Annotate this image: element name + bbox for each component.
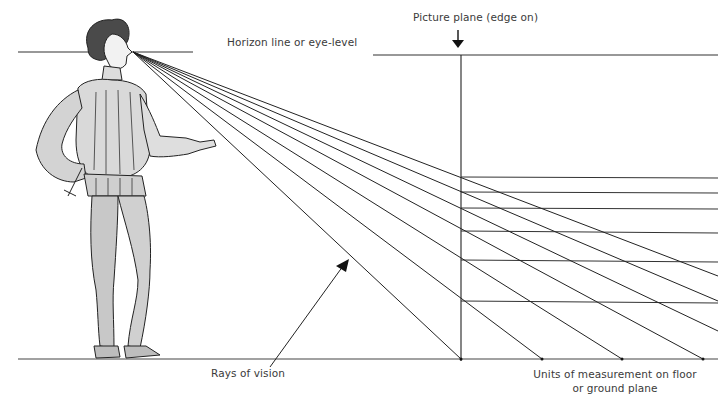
rays-of-vision xyxy=(133,52,718,359)
picture-plane-label: Picture plane (edge on) xyxy=(413,11,538,23)
picture-plane-arrow-icon xyxy=(452,30,464,48)
standing-man-figure xyxy=(36,19,216,358)
horizon-label: Horizon line or eye-level xyxy=(227,36,357,48)
perspective-diagram: Horizon line or eye-level Picture plane … xyxy=(0,0,718,403)
units-label: Units of measurement on floor or ground … xyxy=(495,367,718,395)
rays-of-vision-label: Rays of vision xyxy=(211,367,285,379)
rays-pointer-arrow-icon xyxy=(270,259,349,367)
units-label-line2: or ground plane xyxy=(495,381,718,395)
units-label-line1: Units of measurement on floor xyxy=(495,367,718,381)
